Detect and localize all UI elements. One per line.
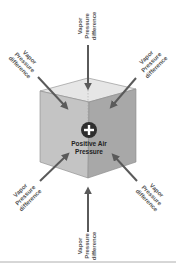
center-label-line2: Pressure [75,148,103,155]
label-top-left: Vapor Pressure difference [7,45,42,80]
label-top-line3: difference [91,11,97,40]
label-top-line2: Pressure [84,12,90,38]
plus-icon-v [88,125,90,135]
vapor-pressure-diagram: Positive Air Pressure Vapor Pressure dif… [0,0,176,268]
label-top-line1: Vapor [77,17,83,34]
label-bottom-left: Vapor Pressure difference [8,178,43,213]
label-bottom-line1: Vapor [77,237,83,254]
label-top: Vapor Pressure difference [77,11,97,40]
center-label-line1: Positive Air [71,140,107,147]
label-bottom-line2: Pressure [84,232,90,258]
label-bottom: Vapor Pressure difference [77,231,97,260]
label-bottom-right: Vapor Pressure difference [134,178,169,213]
label-top-right: Vapor Pressure difference [134,45,169,80]
label-bottom-line3: difference [91,231,97,260]
